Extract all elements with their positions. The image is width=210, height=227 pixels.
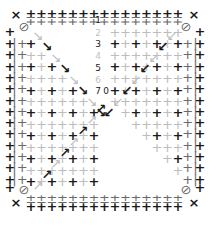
plus-minus-icon: ∓ xyxy=(68,16,79,26)
close-x-icon: × xyxy=(189,10,200,20)
plus-minus-icon: ∓ xyxy=(47,16,58,26)
plus-icon: + xyxy=(78,202,89,212)
close-x-icon: × xyxy=(189,198,200,208)
eye-icon: ⊘ xyxy=(19,22,30,32)
arrow-icon: ↗ xyxy=(96,104,107,114)
arrow-icon: ↗ xyxy=(42,170,53,180)
plus-icon: + xyxy=(57,202,68,212)
plus-minus-icon: ∓ xyxy=(78,16,89,26)
plus-icon: + xyxy=(5,183,16,193)
arrow-icon: ↗ xyxy=(33,181,44,191)
arrow-icon: ↗ xyxy=(69,137,80,147)
plus-icon: + xyxy=(195,183,206,193)
center-label: 7 xyxy=(95,87,101,96)
plus-icon: + xyxy=(162,154,173,164)
plus-minus-icon: ∓ xyxy=(57,16,68,26)
plus-icon: + xyxy=(5,27,16,37)
plus-icon: + xyxy=(152,202,163,212)
center-label: 0 xyxy=(103,87,109,96)
plus-icon: + xyxy=(68,202,79,212)
plus-icon: + xyxy=(131,202,142,212)
plus-icon: + xyxy=(110,202,121,212)
plus-icon: + xyxy=(78,177,89,187)
plus-icon: + xyxy=(173,166,184,176)
eye-icon: ⊘ xyxy=(181,22,192,32)
plus-icon: + xyxy=(195,27,206,37)
center-label: 4 xyxy=(95,52,101,61)
plus-icon: + xyxy=(89,202,100,212)
arrow-icon: ↗ xyxy=(78,126,89,136)
plus-icon: + xyxy=(141,202,152,212)
plus-icon: + xyxy=(162,202,173,212)
plus-icon: + xyxy=(57,177,68,187)
arrow-icon: ↗ xyxy=(51,159,62,169)
center-label: 5 xyxy=(95,64,101,73)
center-label: 2 xyxy=(95,29,101,38)
close-x-icon: × xyxy=(11,198,22,208)
plus-icon: + xyxy=(152,143,163,153)
plus-icon: + xyxy=(26,202,37,212)
pattern-canvas: +∓+∓+∓+∓+∓+∓+∓+∓+∓+∓+∓+∓+∓+∓+∓±+±+±+±+±+… xyxy=(0,0,210,227)
center-label: 6 xyxy=(95,76,101,85)
plus-icon: + xyxy=(120,202,131,212)
plus-icon: + xyxy=(131,120,142,130)
plus-icon: + xyxy=(68,177,79,187)
arrow-icon: ↗ xyxy=(60,148,71,158)
plus-icon: + xyxy=(47,202,58,212)
close-x-icon: × xyxy=(11,10,22,20)
plus-icon: + xyxy=(89,177,100,187)
plus-icon: + xyxy=(173,202,184,212)
center-label: 1 xyxy=(95,16,101,25)
plus-icon: + xyxy=(141,131,152,141)
plus-minus-icon: ∓ xyxy=(36,16,47,26)
plus-icon: + xyxy=(120,108,131,118)
eye-icon: ⊘ xyxy=(19,185,30,195)
plus-icon: + xyxy=(99,202,110,212)
eye-icon: ⊘ xyxy=(181,185,192,195)
plus-icon: + xyxy=(36,202,47,212)
center-label: 3 xyxy=(95,40,101,49)
